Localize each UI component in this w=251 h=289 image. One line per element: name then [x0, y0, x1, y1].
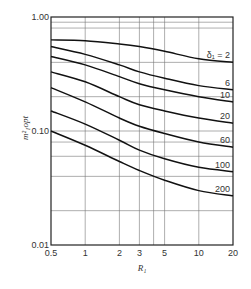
- curve-delta-6: [51, 47, 233, 90]
- y-tick-label: 0.01: [31, 240, 49, 250]
- curve-delta-2: [51, 40, 233, 62]
- curve-delta-200: [51, 131, 233, 196]
- curve-label: 60: [220, 135, 230, 145]
- curve-label: 100: [215, 160, 230, 170]
- y-tick-label: 1.00: [31, 12, 49, 22]
- x-tick-label: 3: [137, 248, 142, 258]
- grid-lines: [51, 17, 233, 245]
- y-tick-labels: 0.010.101.00: [31, 12, 49, 250]
- curve-label: 20: [220, 111, 230, 121]
- x-tick-label: 10: [194, 248, 204, 258]
- curves: [51, 40, 233, 196]
- chart: 0.512351020 0.010.101.00 δ₁ = 2610206010…: [0, 0, 251, 289]
- y-tick-label: 0.10: [31, 126, 49, 136]
- x-tick-label: 5: [162, 248, 167, 258]
- curve-label: δ₁ = 2: [207, 50, 230, 60]
- curve-delta-100: [51, 111, 233, 172]
- x-tick-label: 20: [228, 248, 238, 258]
- curve-label: 200: [215, 184, 230, 194]
- y-axis-label: m²₁opt: [20, 116, 30, 140]
- x-tick-labels: 0.512351020: [45, 248, 238, 258]
- x-tick-label: 2: [117, 248, 122, 258]
- x-axis-label: R₁: [137, 263, 147, 273]
- curve-label: 10: [220, 90, 230, 100]
- curve-label: 6: [225, 78, 230, 88]
- x-tick-label: 1: [83, 248, 88, 258]
- svg-text:m²₁opt: m²₁opt: [20, 116, 30, 140]
